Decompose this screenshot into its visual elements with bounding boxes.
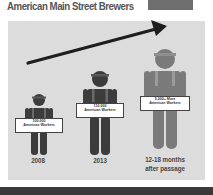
sign-2008: 100,000 American Workers <box>15 118 63 133</box>
sign-after-passage: 5,000+ More American Workers <box>140 96 190 111</box>
sign-caption: American Workers <box>141 102 189 106</box>
label-line1: 12-18 months <box>139 155 190 164</box>
category-label-2008: 2008 <box>17 156 59 165</box>
label-line2: after passage <box>139 164 190 173</box>
sign-caption: American Workers <box>16 124 62 128</box>
category-label-after-passage: 12-18 months after passage <box>139 155 190 174</box>
sign-caption: American Workers <box>77 109 123 113</box>
label-line1: 2013 <box>93 157 107 164</box>
label-line1: 2008 <box>31 157 45 164</box>
sign-2013: 110,000 American Workers <box>76 103 124 118</box>
bottom-bar <box>0 187 213 195</box>
category-label-2013: 2013 <box>79 156 121 165</box>
